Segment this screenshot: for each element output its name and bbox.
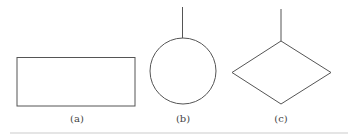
- diamond-shape: [232, 41, 331, 104]
- panel-a-label: (a): [70, 113, 84, 124]
- panel-c: (c): [232, 9, 331, 124]
- rectangle-shape: [17, 58, 135, 107]
- panel-a: (a): [17, 58, 135, 125]
- panel-c-label: (c): [274, 113, 288, 124]
- panel-b: (b): [150, 7, 216, 124]
- circle-shape: [150, 38, 216, 104]
- shapes-figure: (a) (b) (c): [0, 0, 348, 135]
- panel-b-label: (b): [176, 113, 190, 124]
